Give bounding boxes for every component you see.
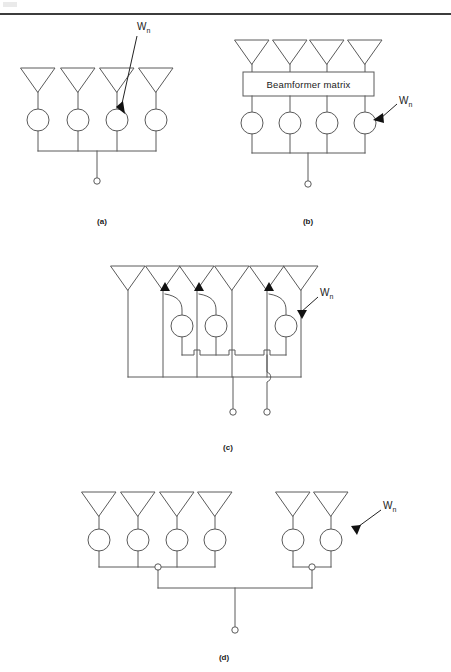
antenna-icon (21, 68, 55, 109)
output-wire-secondary (267, 355, 271, 409)
weight-circle (275, 315, 297, 337)
output-port (94, 178, 100, 184)
subarray-junction-right (309, 564, 315, 570)
weight-circle (27, 109, 49, 131)
weight-circle (88, 529, 110, 551)
weight-circle (67, 109, 89, 131)
weight-circle (282, 529, 304, 551)
antenna-icon (235, 40, 269, 72)
antenna-icon (139, 68, 173, 109)
caption-c: (c) (223, 443, 233, 452)
weight-label-c: Wn (320, 287, 333, 300)
weight-circle (320, 529, 342, 551)
weight-tap-arrowhead (160, 282, 170, 291)
weight-circle (127, 529, 149, 551)
weight-circle (354, 112, 376, 134)
antenna-icon (111, 266, 145, 377)
weight-circle (166, 529, 188, 551)
antenna-icon (276, 492, 310, 529)
antenna-icon (61, 68, 95, 109)
weight-circle (205, 315, 227, 337)
figure-a: Wn (a) (21, 21, 173, 226)
caption-b: (b) (303, 217, 314, 226)
weight-tap-branch (165, 294, 182, 315)
antenna-icon (310, 40, 344, 72)
weight-circle (145, 109, 167, 131)
weight-label-d: Wn (383, 500, 396, 513)
antenna-icon (273, 40, 307, 72)
antenna-icon (82, 492, 116, 529)
antenna-icon (160, 492, 194, 529)
weight-pointer-line (381, 104, 397, 118)
output-port (232, 627, 238, 633)
antenna-icon (348, 40, 382, 72)
weight-pointer-arrowhead (297, 310, 307, 319)
weight-circle (171, 315, 193, 337)
caption-a: (a) (97, 217, 107, 226)
weight-tap-arrowhead (194, 282, 204, 291)
figure-c: Wn (c) (111, 266, 333, 452)
figure-page: Wn (a) Beamformer ma (0, 0, 451, 672)
antenna-icon (121, 492, 155, 529)
beamformer-matrix-label: Beamformer matrix (266, 79, 350, 90)
weight-tap-arrowhead (264, 282, 274, 291)
weight-circle (316, 112, 338, 134)
subarray-junction-left (155, 564, 161, 570)
antenna-array-figure: Wn (a) Beamformer ma (0, 0, 451, 672)
weight-label-b: Wn (399, 95, 412, 108)
weight-tap-branch (269, 294, 286, 315)
output-port (305, 181, 311, 187)
output-port (264, 409, 270, 415)
figure-d: Wn (d) (82, 492, 396, 662)
weight-circle (279, 112, 301, 134)
weight-tap-branch (199, 294, 216, 315)
weight-label-a: Wn (137, 21, 150, 34)
secondary-summing-bus (182, 350, 286, 355)
antenna-icon (314, 492, 348, 529)
weight-circle (241, 112, 263, 134)
output-port (230, 409, 236, 415)
caption-d: (d) (219, 653, 230, 662)
weight-pointer-line (121, 36, 137, 108)
weight-pointer-arrowhead (351, 525, 361, 535)
figure-b: Beamformer matrix Wn (b) (235, 40, 412, 226)
weight-circle (204, 529, 226, 551)
antenna-icon (198, 492, 232, 529)
